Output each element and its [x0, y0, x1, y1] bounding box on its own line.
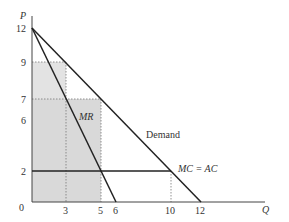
origin-label: 0 — [19, 202, 24, 213]
y-tick-9: 9 — [21, 57, 26, 68]
chart: P Q 0 12 9 7 6 2 3 5 6 10 12 MR Demand M… — [0, 0, 289, 222]
shaded-area-high — [32, 62, 66, 99]
mc-ac-label: MC = AC — [177, 163, 218, 174]
demand-label: Demand — [146, 129, 180, 140]
x-tick-10: 10 — [165, 205, 175, 216]
y-tick-2: 2 — [21, 166, 26, 177]
x-tick-6: 6 — [113, 205, 118, 216]
x-tick-3: 3 — [63, 205, 68, 216]
x-tick-5: 5 — [98, 205, 103, 216]
y-axis-label: P — [19, 10, 26, 21]
x-tick-12: 12 — [195, 205, 205, 216]
mr-label: MR — [78, 111, 93, 122]
y-tick-12: 12 — [16, 23, 26, 34]
y-tick-6: 6 — [21, 115, 26, 126]
x-axis-label: Q — [262, 204, 270, 215]
y-tick-7: 7 — [21, 94, 26, 105]
